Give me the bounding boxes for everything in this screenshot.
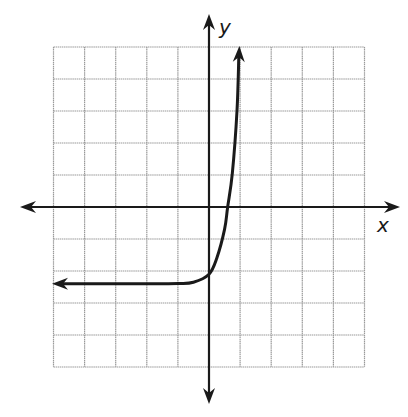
- axes: [20, 14, 400, 404]
- exponential-curve: [62, 55, 239, 284]
- x-axis-label: x: [376, 213, 389, 237]
- y-axis-label: y: [218, 15, 232, 39]
- coordinate-plane: y x: [0, 0, 408, 417]
